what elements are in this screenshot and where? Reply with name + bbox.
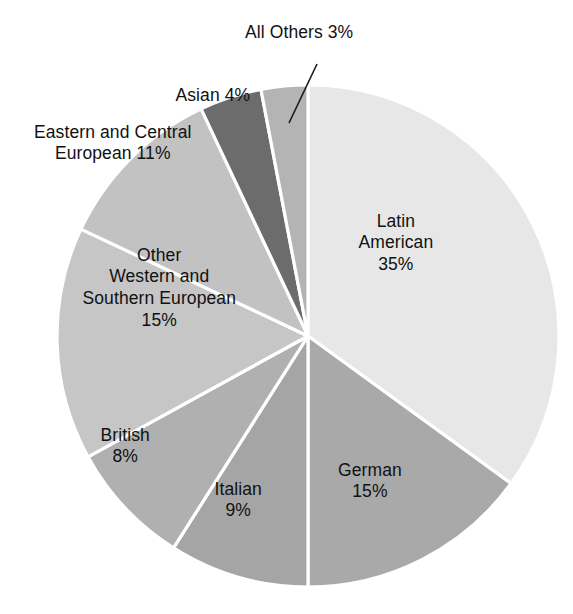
pie-label-line: 15% <box>338 481 402 503</box>
pie-label-all-others: All Others 3% <box>245 22 353 44</box>
pie-label-line: All Others 3% <box>245 22 353 44</box>
pie-label-line: Asian 4% <box>176 85 251 107</box>
pie-label-line: 15% <box>83 310 236 332</box>
pie-label-line: American <box>359 232 434 254</box>
pie-label-line: Italian <box>215 479 262 501</box>
pie-label-asian: Asian 4% <box>176 85 251 107</box>
pie-label-line: Western and <box>83 266 236 288</box>
pie-label-italian: Italian9% <box>215 479 262 522</box>
pie-label-british: British8% <box>101 425 150 468</box>
pie-label-line: Latin <box>359 211 434 233</box>
pie-label-line: Southern European <box>83 288 236 310</box>
pie-label-eastern-and-central-european: Eastern and CentralEuropean 11% <box>34 122 192 165</box>
pie-label-line: European 11% <box>34 143 192 165</box>
pie-chart-figure: LatinAmerican35%German15%Italian9%Britis… <box>0 0 573 614</box>
pie-label-german: German15% <box>338 460 402 503</box>
pie-label-line: German <box>338 460 402 482</box>
pie-label-latin-american: LatinAmerican35% <box>359 211 434 276</box>
pie-label-other-western-and-southern-european: OtherWestern andSouthern European15% <box>83 245 236 332</box>
pie-label-line: Eastern and Central <box>34 122 192 144</box>
pie-label-line: Other <box>83 245 236 267</box>
pie-label-line: 8% <box>101 446 150 468</box>
pie-label-line: 35% <box>359 254 434 276</box>
pie-label-line: British <box>101 425 150 447</box>
pie-label-line: 9% <box>215 500 262 522</box>
